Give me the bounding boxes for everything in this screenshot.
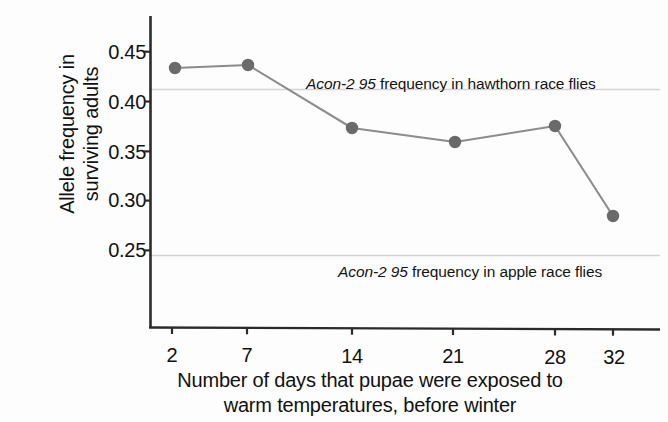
x-tick-label-group: 2 7 14 21 28 32 [0, 0, 668, 422]
x-tick-label: 28 [544, 347, 566, 367]
x-tick-label: 21 [442, 346, 464, 366]
x-axis-title-line-1: Number of days that pupae were exposed t… [120, 368, 620, 393]
x-axis-title: Number of days that pupae were exposed t… [120, 368, 620, 418]
x-tick-label: 2 [167, 345, 178, 365]
x-tick-label: 14 [341, 346, 363, 366]
x-axis-title-line-2: warm temperatures, before winter [120, 393, 620, 418]
chart-figure: Allele frequency in surviving adults 0.4… [0, 0, 668, 422]
x-tick-label: 32 [603, 347, 625, 367]
x-tick-label: 7 [242, 345, 253, 365]
